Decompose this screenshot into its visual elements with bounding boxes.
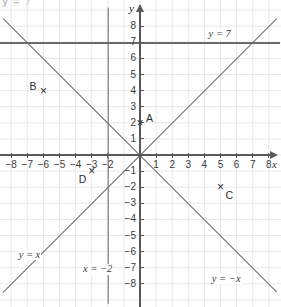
y-tick-label: 5 (130, 70, 136, 80)
x-tick-label: −8 (5, 160, 16, 170)
x-axis (0, 154, 272, 156)
x-tick-label: −2 (102, 160, 113, 170)
x-tick (107, 153, 108, 158)
equation-label-y-x: y = x (18, 250, 42, 261)
x-tick (188, 153, 189, 158)
x-tick (252, 153, 253, 158)
point-marker-c: × (217, 181, 224, 193)
y-tick-label: 7 (130, 37, 136, 47)
x-tick (156, 153, 157, 158)
point-label-d: D (79, 174, 87, 185)
x-tick (27, 153, 28, 158)
y-tick (139, 90, 144, 91)
y-tick (139, 251, 144, 252)
y-tick (139, 267, 144, 268)
y-tick (139, 235, 144, 236)
point-label-a: A (146, 113, 153, 124)
plot-layer: yx−8−7−6−5−4−3−21234567887654321−1−2−3−4… (0, 0, 281, 307)
x-tick-label: 6 (234, 160, 240, 170)
y-tick (139, 219, 144, 220)
y-tick (139, 171, 144, 172)
equation-label-y-7: y = 7 (208, 29, 232, 40)
x-tick-label: 3 (186, 160, 192, 170)
y-tick (139, 187, 144, 188)
y-tick-label: −8 (125, 279, 136, 289)
y-axis (139, 10, 141, 307)
point-marker-b: × (40, 85, 47, 97)
x-tick (11, 153, 12, 158)
x-tick (43, 153, 44, 158)
y-tick (139, 58, 144, 59)
y-tick-label: −4 (125, 214, 136, 224)
x-tick-label: −4 (70, 160, 81, 170)
y-tick-label: −7 (125, 263, 136, 273)
x-tick (268, 153, 269, 158)
y-axis-label: y (129, 3, 134, 14)
x-tick-label: 8 (266, 160, 272, 170)
y-tick-label: 8 (130, 21, 136, 31)
point-label-b: B (29, 81, 36, 92)
y-tick (139, 203, 144, 204)
point-marker-a: × (136, 117, 143, 129)
y-tick (139, 283, 144, 284)
y-tick-label: 6 (130, 53, 136, 63)
coordinate-plane-figure: y = 7 yx−8−7−6−5−4−3−21234567887654321−1… (0, 0, 281, 307)
x-axis-label: x (272, 159, 277, 170)
x-tick-label: 5 (218, 160, 224, 170)
y-tick-label: −1 (125, 166, 136, 176)
x-tick-label: 7 (250, 160, 256, 170)
x-tick-label: 1 (153, 160, 159, 170)
y-tick (139, 106, 144, 107)
x-tick-label: 2 (169, 160, 175, 170)
x-tick (75, 153, 76, 158)
equation-label-y-x: y = −x (211, 274, 242, 285)
y-tick (139, 42, 144, 43)
x-tick-label: 4 (202, 160, 208, 170)
y-tick (139, 26, 144, 27)
point-label-c: C (226, 190, 234, 201)
y-tick-label: 4 (130, 86, 136, 96)
x-tick (172, 153, 173, 158)
y-tick-label: −5 (125, 231, 136, 241)
y-tick-label: −3 (125, 198, 136, 208)
x-tick-label: −6 (38, 160, 49, 170)
point-marker-d: × (88, 165, 95, 177)
y-tick (139, 74, 144, 75)
y-tick (139, 138, 144, 139)
x-tick (59, 153, 60, 158)
y-axis-arrow-icon (136, 4, 144, 12)
y-tick-label: 3 (130, 102, 136, 112)
x-tick (91, 153, 92, 158)
equation-label-x-2: x = −2 (82, 264, 113, 275)
y-tick-label: −6 (125, 247, 136, 257)
x-tick-label: −7 (22, 160, 33, 170)
x-tick (236, 153, 237, 158)
x-tick (220, 153, 221, 158)
x-tick-label: −5 (54, 160, 65, 170)
y-tick-label: −2 (125, 182, 136, 192)
x-tick (204, 153, 205, 158)
y-tick-label: 2 (130, 118, 136, 128)
y-tick-label: 1 (130, 134, 136, 144)
